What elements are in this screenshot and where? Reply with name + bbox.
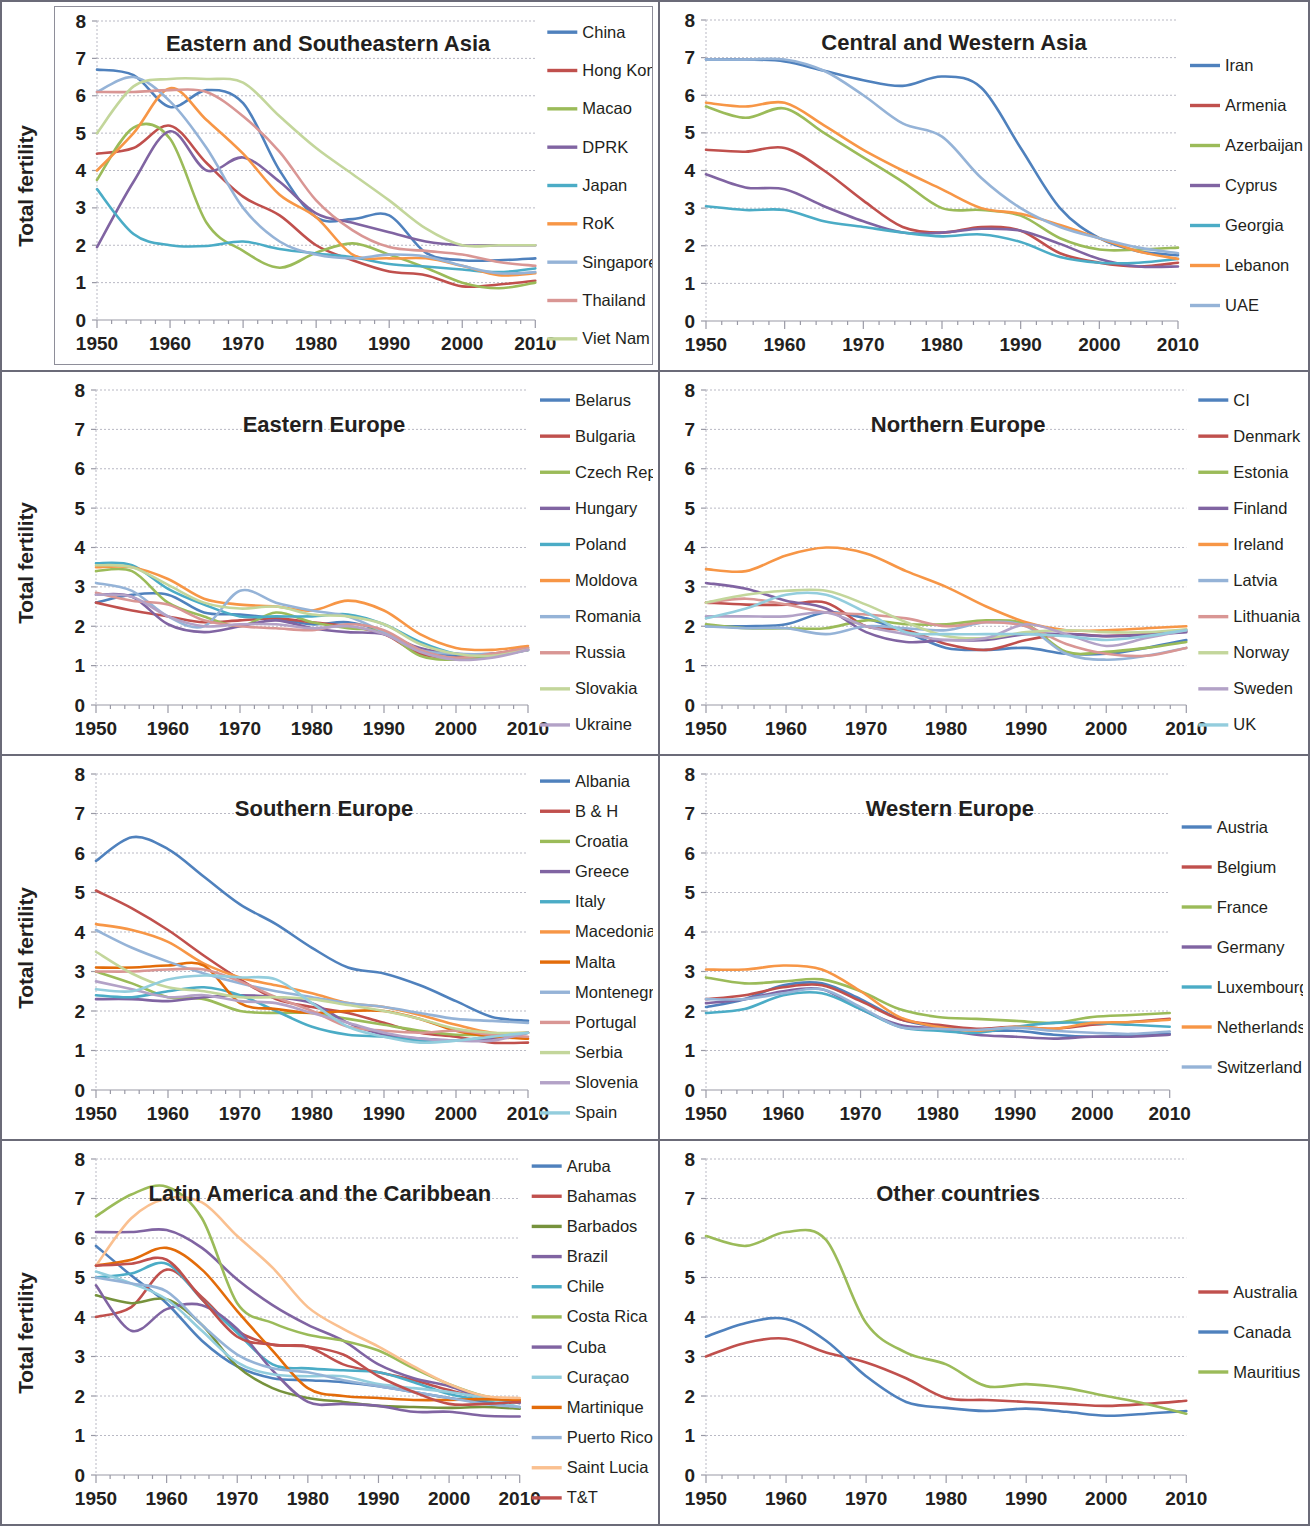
svg-text:1990: 1990 bbox=[994, 1103, 1036, 1124]
svg-text:1: 1 bbox=[684, 273, 695, 294]
svg-text:8: 8 bbox=[75, 11, 86, 32]
svg-text:Estonia: Estonia bbox=[1233, 463, 1289, 481]
svg-text:2000: 2000 bbox=[1078, 334, 1120, 355]
svg-text:2000: 2000 bbox=[435, 718, 477, 739]
svg-text:5: 5 bbox=[74, 498, 85, 519]
svg-text:T&T: T&T bbox=[567, 1488, 598, 1506]
chart-svg-5: 0123456781950196019701980199020002010Wes… bbox=[664, 760, 1303, 1134]
svg-text:7: 7 bbox=[684, 47, 695, 68]
svg-text:0: 0 bbox=[684, 1465, 695, 1486]
chart-panel-2: 0123456781950196019701980199020002010Eas… bbox=[54, 376, 653, 749]
svg-text:1: 1 bbox=[684, 655, 695, 676]
y-axis-title-2: Total fertility bbox=[2, 372, 50, 754]
svg-text:5: 5 bbox=[684, 498, 695, 519]
svg-text:Other countries: Other countries bbox=[876, 1181, 1040, 1206]
svg-text:DPRK: DPRK bbox=[582, 138, 628, 156]
svg-text:Malta: Malta bbox=[575, 953, 616, 971]
svg-text:1950: 1950 bbox=[75, 1103, 117, 1124]
svg-text:6: 6 bbox=[684, 85, 695, 106]
svg-text:Switzerland: Switzerland bbox=[1217, 1058, 1302, 1076]
svg-text:2010: 2010 bbox=[1165, 1488, 1207, 1509]
svg-text:Serbia: Serbia bbox=[575, 1043, 624, 1061]
svg-text:1990: 1990 bbox=[363, 1103, 405, 1124]
svg-text:0: 0 bbox=[74, 1080, 85, 1101]
svg-text:1: 1 bbox=[74, 1040, 85, 1061]
svg-text:2: 2 bbox=[74, 616, 85, 637]
panel-cell-eastern-southeastern-asia: Total fertility 012345678195019601970198… bbox=[0, 0, 660, 372]
svg-text:2000: 2000 bbox=[1085, 1488, 1127, 1509]
panel-cell-southern-europe: Total fertility 012345678195019601970198… bbox=[0, 756, 660, 1141]
y-axis-title-label-2: Total fertility bbox=[14, 502, 38, 623]
chart-panel-6: 0123456781950196019701980199020002010Lat… bbox=[54, 1145, 653, 1519]
svg-text:5: 5 bbox=[74, 882, 85, 903]
svg-text:Eastern and Southeastern Asia: Eastern and Southeastern Asia bbox=[166, 31, 491, 56]
svg-text:2010: 2010 bbox=[514, 333, 556, 354]
svg-text:2000: 2000 bbox=[1085, 718, 1127, 739]
svg-text:Macedonia: Macedonia bbox=[575, 922, 653, 940]
svg-text:RoK: RoK bbox=[582, 214, 614, 232]
svg-text:Russia: Russia bbox=[575, 643, 626, 661]
chart-svg-3: 0123456781950196019701980199020002010Nor… bbox=[664, 376, 1303, 749]
svg-text:1980: 1980 bbox=[917, 1103, 959, 1124]
svg-text:Portugal: Portugal bbox=[575, 1013, 636, 1031]
svg-text:1990: 1990 bbox=[1005, 1488, 1047, 1509]
svg-text:Brazil: Brazil bbox=[567, 1247, 608, 1265]
svg-text:2000: 2000 bbox=[441, 333, 483, 354]
svg-text:7: 7 bbox=[684, 1188, 695, 1209]
svg-text:Ukraine: Ukraine bbox=[575, 715, 632, 733]
svg-text:Curaçao: Curaçao bbox=[567, 1368, 629, 1386]
svg-text:2: 2 bbox=[75, 235, 86, 256]
chart-panel-4: 0123456781950196019701980199020002010Sou… bbox=[54, 760, 653, 1134]
plot-area-1: 0123456781950196019701980199020002010Cen… bbox=[664, 6, 1303, 365]
panel-cell-northern-europe: 0123456781950196019701980199020002010Nor… bbox=[660, 372, 1310, 756]
svg-text:1990: 1990 bbox=[357, 1488, 399, 1509]
chart-panel-0: 0123456781950196019701980199020002010Eas… bbox=[54, 6, 653, 365]
svg-text:Ireland: Ireland bbox=[1233, 535, 1283, 553]
svg-text:4: 4 bbox=[74, 1307, 85, 1328]
svg-text:1970: 1970 bbox=[222, 333, 264, 354]
svg-text:3: 3 bbox=[74, 961, 85, 982]
svg-text:7: 7 bbox=[74, 803, 85, 824]
svg-text:Saint Lucia: Saint Lucia bbox=[567, 1458, 649, 1476]
svg-text:Poland: Poland bbox=[575, 535, 626, 553]
svg-text:3: 3 bbox=[684, 576, 695, 597]
svg-text:Barbados: Barbados bbox=[567, 1217, 638, 1235]
svg-text:5: 5 bbox=[74, 1267, 85, 1288]
svg-text:2: 2 bbox=[684, 1386, 695, 1407]
svg-text:Hungary: Hungary bbox=[575, 499, 638, 517]
panel-cell-latin-america-caribbean: Total fertility 012345678195019601970198… bbox=[0, 1141, 660, 1526]
svg-text:1970: 1970 bbox=[845, 718, 887, 739]
svg-text:2: 2 bbox=[684, 1001, 695, 1022]
svg-text:Slovakia: Slovakia bbox=[575, 679, 638, 697]
svg-text:0: 0 bbox=[74, 1465, 85, 1486]
chart-panel-7: 0123456781950196019701980199020002010Oth… bbox=[664, 1145, 1303, 1519]
svg-text:Viet Nam: Viet Nam bbox=[582, 329, 650, 347]
svg-text:France: France bbox=[1217, 898, 1268, 916]
svg-text:4: 4 bbox=[74, 922, 85, 943]
svg-text:7: 7 bbox=[74, 1188, 85, 1209]
svg-text:1960: 1960 bbox=[765, 1488, 807, 1509]
svg-text:Luxembourg: Luxembourg bbox=[1217, 978, 1303, 996]
svg-text:5: 5 bbox=[684, 882, 695, 903]
plot-area-3: 0123456781950196019701980199020002010Nor… bbox=[664, 376, 1303, 749]
chart-svg-1: 0123456781950196019701980199020002010Cen… bbox=[664, 6, 1303, 365]
svg-text:1: 1 bbox=[74, 1425, 85, 1446]
svg-text:1970: 1970 bbox=[839, 1103, 881, 1124]
svg-text:1970: 1970 bbox=[219, 1103, 261, 1124]
svg-text:Romania: Romania bbox=[575, 607, 642, 625]
svg-text:Norway: Norway bbox=[1233, 643, 1290, 661]
svg-text:1980: 1980 bbox=[291, 1103, 333, 1124]
svg-text:2: 2 bbox=[684, 235, 695, 256]
svg-text:Albania: Albania bbox=[575, 772, 631, 790]
panel-cell-eastern-europe: Total fertility 012345678195019601970198… bbox=[0, 372, 660, 756]
panel-cell-central-western-asia: 0123456781950196019701980199020002010Cen… bbox=[660, 0, 1310, 372]
svg-text:Puerto Rico: Puerto Rico bbox=[567, 1428, 653, 1446]
svg-text:Eastern Europe: Eastern Europe bbox=[243, 412, 406, 437]
svg-text:8: 8 bbox=[684, 764, 695, 785]
plot-area-7: 0123456781950196019701980199020002010Oth… bbox=[664, 1145, 1303, 1519]
svg-text:Western Europe: Western Europe bbox=[866, 796, 1034, 821]
svg-text:Montenegro: Montenegro bbox=[575, 983, 653, 1001]
svg-text:8: 8 bbox=[684, 1149, 695, 1170]
svg-text:1960: 1960 bbox=[764, 334, 806, 355]
svg-text:Slovenia: Slovenia bbox=[575, 1073, 639, 1091]
